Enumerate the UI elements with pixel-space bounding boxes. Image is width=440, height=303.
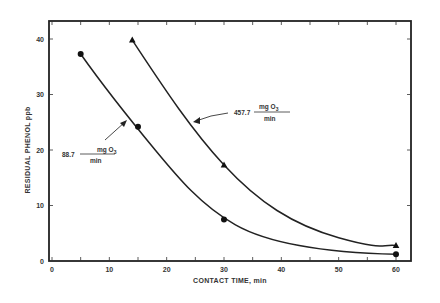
annotation-88-7-denominator: min bbox=[90, 157, 102, 164]
triangle-marker bbox=[129, 37, 136, 43]
annotation-457-7-numerator: mg O3 bbox=[259, 103, 279, 112]
y-axis-title: RESIDUAL PHENOL ppb bbox=[24, 106, 32, 193]
y-tick-label: 40 bbox=[36, 36, 44, 43]
annotation-457-7: 457.7 mg O3 min bbox=[193, 103, 290, 124]
annotation-457-7-value: 457.7 bbox=[234, 109, 251, 116]
x-tick-label: 40 bbox=[277, 266, 285, 273]
annotation-88-7-value: 88.7 bbox=[62, 151, 75, 158]
curve-88-7 bbox=[81, 54, 396, 254]
x-tick-label: 20 bbox=[163, 266, 171, 273]
chart-canvas: 0102030405060 010203040 CONTACT TIME, mi… bbox=[0, 0, 440, 303]
x-tick-label: 10 bbox=[105, 266, 113, 273]
circle-marker bbox=[78, 51, 84, 57]
data-curves bbox=[81, 40, 396, 254]
circle-marker bbox=[393, 251, 399, 257]
y-tick-label: 0 bbox=[40, 258, 44, 265]
plot-frame bbox=[49, 21, 411, 261]
annotation-457-7-denominator: min bbox=[264, 115, 276, 122]
x-tick-label: 0 bbox=[50, 266, 54, 273]
arrow-line bbox=[196, 113, 228, 121]
x-tick-label: 50 bbox=[335, 266, 343, 273]
y-tick-label: 30 bbox=[36, 91, 44, 98]
annotation-88-7: 88.7 mg O3 min bbox=[62, 120, 127, 164]
x-tick-label: 60 bbox=[392, 266, 400, 273]
curve-457-7 bbox=[132, 40, 396, 246]
circle-marker bbox=[135, 124, 141, 130]
x-tick-label: 30 bbox=[220, 266, 228, 273]
x-axis-title: CONTACT TIME, min bbox=[193, 277, 267, 285]
circle-marker bbox=[221, 216, 227, 222]
arrow-head-icon bbox=[193, 117, 200, 124]
y-tick-label: 10 bbox=[36, 202, 44, 209]
data-markers bbox=[78, 37, 400, 258]
y-tick-label: 20 bbox=[36, 147, 44, 154]
